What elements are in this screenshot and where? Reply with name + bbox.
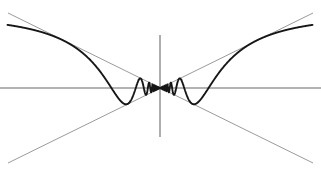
figure-container	[0, 0, 321, 173]
squeeze-theorem-plot	[0, 0, 321, 173]
